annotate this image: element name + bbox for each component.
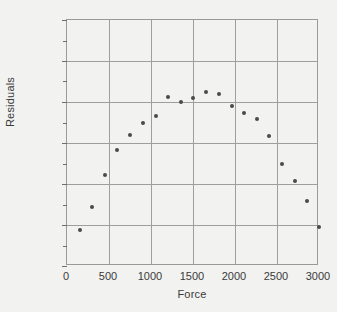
data-point xyxy=(90,205,94,209)
gridline-horizontal xyxy=(67,184,317,185)
data-point xyxy=(267,134,271,138)
x-tick-label: 3000 xyxy=(288,270,337,282)
data-point xyxy=(317,225,321,229)
data-point xyxy=(305,199,309,203)
data-point xyxy=(166,95,170,99)
data-point xyxy=(230,104,234,108)
data-point xyxy=(115,148,119,152)
gridline-vertical xyxy=(235,20,236,264)
gridline-horizontal xyxy=(67,143,317,144)
y-tick-minor xyxy=(63,205,67,206)
y-tick-minor xyxy=(63,123,67,124)
data-point xyxy=(217,92,221,96)
data-point xyxy=(103,173,107,177)
gridline-vertical xyxy=(193,20,194,264)
y-tick-major xyxy=(62,61,67,62)
data-point xyxy=(255,117,259,121)
gridline-horizontal xyxy=(67,225,317,226)
x-tick-label: 2000 xyxy=(204,270,264,282)
x-tick-label: 1500 xyxy=(162,270,222,282)
gridline-horizontal xyxy=(67,102,317,103)
data-point xyxy=(242,111,246,115)
gridline-vertical xyxy=(277,20,278,264)
gridline-vertical xyxy=(151,20,152,264)
data-point xyxy=(179,100,183,104)
data-point xyxy=(78,228,82,232)
y-tick-major xyxy=(62,184,67,185)
gridline-horizontal xyxy=(67,61,317,62)
data-point xyxy=(141,121,145,125)
data-point xyxy=(128,133,132,137)
y-tick-minor xyxy=(63,164,67,165)
data-point xyxy=(191,96,195,100)
y-tick-major xyxy=(62,143,67,144)
y-tick-major xyxy=(62,225,67,226)
x-tick-label: 1000 xyxy=(120,270,180,282)
x-tick-label: 2500 xyxy=(246,270,306,282)
y-tick-major xyxy=(62,20,67,21)
data-point xyxy=(293,179,297,183)
y-tick-major xyxy=(62,266,67,267)
data-point xyxy=(280,162,284,166)
data-point xyxy=(154,114,158,118)
y-axis-title: Residuals xyxy=(4,70,16,134)
y-tick-minor xyxy=(63,246,67,247)
y-tick-major xyxy=(62,102,67,103)
residuals-scatter-chart: Residuals Force -0.006-0.004-0.00200.002… xyxy=(0,0,337,312)
gridline-vertical xyxy=(109,20,110,264)
x-tick-label: 0 xyxy=(36,270,96,282)
y-tick-minor xyxy=(63,41,67,42)
y-tick-minor xyxy=(63,81,67,82)
plot-area xyxy=(66,19,318,265)
data-point xyxy=(204,90,208,94)
x-axis-title: Force xyxy=(66,288,318,300)
x-tick-label: 500 xyxy=(78,270,138,282)
